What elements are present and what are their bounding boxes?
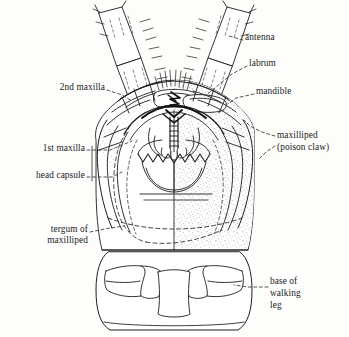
label-second-maxilla: 2nd maxilla bbox=[60, 82, 105, 93]
label-labrum: labrum bbox=[249, 58, 276, 69]
leader-maxilliped-2 bbox=[258, 146, 275, 160]
label-maxilliped-2: (poison claw) bbox=[277, 142, 329, 153]
label-base-walking-2: walking bbox=[270, 288, 301, 299]
first-trunk-segment bbox=[96, 252, 252, 330]
label-head-capsule: head capsule bbox=[36, 170, 85, 181]
label-base-walking-3: leg bbox=[270, 300, 282, 311]
figure-artwork bbox=[87, 1, 275, 330]
label-base-walking-1: base of bbox=[270, 276, 297, 287]
label-antenna: antenna bbox=[245, 32, 275, 43]
label-maxilliped-1: maxilliped bbox=[277, 130, 318, 141]
label-first-maxilla: 1st maxilla bbox=[43, 143, 85, 154]
label-mandible: mandible bbox=[256, 86, 291, 97]
label-tergum-2: maxilliped bbox=[47, 235, 88, 246]
label-tergum-1: tergum of bbox=[51, 224, 88, 235]
